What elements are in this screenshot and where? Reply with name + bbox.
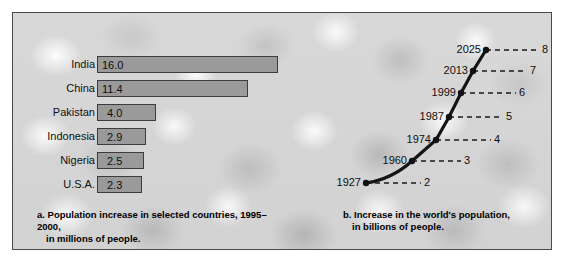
bar-row: Nigeria 2.5 — [13, 152, 281, 169]
value-label-8: 8 — [542, 43, 548, 55]
year-label-1960: 1960 — [363, 154, 407, 166]
data-point-1987 — [446, 114, 452, 120]
year-label-1927: 1927 — [317, 176, 361, 188]
year-label-1987: 1987 — [400, 110, 444, 122]
data-point-1999 — [458, 90, 464, 96]
year-label-1974: 1974 — [387, 133, 431, 145]
year-label-1999: 1999 — [412, 86, 456, 98]
data-point-1974 — [433, 137, 439, 143]
bar-rect: 4.0 — [97, 104, 156, 121]
bar-value: 2.3 — [107, 177, 122, 194]
value-label-4: 4 — [494, 133, 500, 145]
caption-b: b. Increase in the world's population, i… — [343, 209, 552, 233]
bar-label-country: China — [13, 80, 95, 97]
bar-label-country: Pakistan — [13, 104, 95, 121]
bar-value: 16.0 — [102, 57, 123, 74]
caption-b-line1: b. Increase in the world's population, — [343, 209, 510, 220]
population-figure: India 16.0 China 11.4 Pakistan 4.0 Indon… — [0, 0, 562, 268]
bar-row: China 11.4 — [13, 80, 281, 97]
data-point-2025 — [483, 47, 489, 53]
bar-rect: 2.5 — [97, 152, 144, 169]
caption-b-line2: in billions of people. — [343, 221, 552, 233]
bar-row: U.S.A. 2.3 — [13, 176, 281, 193]
bar-label-country: U.S.A. — [13, 176, 95, 193]
caption-a: a. Population increase in selected count… — [37, 209, 277, 245]
year-label-2013: 2013 — [424, 64, 468, 76]
value-label-2: 2 — [424, 176, 430, 188]
value-label-7: 7 — [530, 64, 536, 76]
photo-panel: India 16.0 China 11.4 Pakistan 4.0 Indon… — [12, 12, 552, 250]
bar-row: India 16.0 — [13, 56, 281, 73]
data-point-2013 — [470, 68, 476, 74]
value-label-3: 3 — [464, 154, 470, 166]
bar-rect: 2.3 — [97, 176, 142, 193]
bar-label-country: India — [13, 56, 95, 73]
bar-label-country: Nigeria — [13, 152, 95, 169]
value-label-5: 5 — [506, 110, 512, 122]
bar-value: 2.5 — [107, 153, 122, 170]
bar-row: Pakistan 4.0 — [13, 104, 281, 121]
bar-value: 4.0 — [107, 105, 122, 122]
bar-rect: 2.9 — [97, 128, 146, 145]
bar-value: 11.4 — [102, 81, 123, 98]
bar-rect: 16.0 — [97, 56, 278, 73]
caption-a-line1: a. Population increase in selected count… — [37, 209, 267, 232]
caption-a-line2: in millions of people. — [37, 233, 277, 245]
bar-rect: 11.4 — [97, 80, 248, 97]
bar-label-country: Indonesia — [13, 128, 95, 145]
bar-value: 2.9 — [107, 129, 122, 146]
value-label-6: 6 — [519, 86, 525, 98]
data-point-1927 — [363, 180, 369, 186]
year-label-2025: 2025 — [437, 43, 481, 55]
data-point-1960 — [409, 158, 415, 164]
bar-row: Indonesia 2.9 — [13, 128, 281, 145]
